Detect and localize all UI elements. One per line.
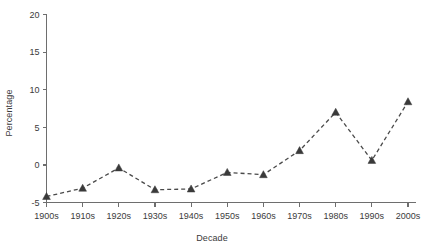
data-point-markers [43,98,412,200]
data-point-marker [223,168,231,175]
x-axis-tick-label: 1960s [251,211,276,221]
x-axis-tick-labels: 1900s1910s1920s1930s1940s1950s1960s1970s… [34,211,421,221]
data-point-marker [332,108,340,115]
x-axis-tick-label: 1980s [323,211,348,221]
y-axis-tick-labels: -505101520 [29,10,39,208]
x-axis-tick-label: 1940s [179,211,204,221]
y-axis-title: Percentage [4,73,14,153]
data-point-marker [260,171,268,178]
x-axis-tick-label: 1900s [34,211,59,221]
data-point-marker [404,98,412,105]
y-axis-tick-label: 0 [34,160,39,170]
x-axis-tick-label: 1990s [360,211,385,221]
y-axis-tick-label: 15 [29,47,39,57]
line-chart-plot: -505101520 1900s1910s1920s1930s1940s1950… [0,0,424,252]
y-axis-tick-label: 5 [34,123,39,133]
y-axis-tick-label: -5 [31,198,39,208]
chart-container: -505101520 1900s1910s1920s1930s1940s1950… [0,0,424,252]
x-axis-tick-label: 1920s [107,211,132,221]
y-axis-tick-label: 20 [29,10,39,20]
x-axis-tick-label: 1910s [70,211,95,221]
data-point-marker [115,164,123,171]
data-series-line [47,102,409,197]
x-axis-title: Decade [0,233,424,243]
x-axis-tick-label: 1930s [143,211,168,221]
data-point-marker [151,186,159,193]
data-point-marker [79,184,87,191]
x-axis-tick-label: 1950s [215,211,240,221]
x-axis-tick-label: 2000s [396,211,421,221]
y-axis-tick-label: 10 [29,85,39,95]
x-axis-tick-label: 1970s [287,211,312,221]
